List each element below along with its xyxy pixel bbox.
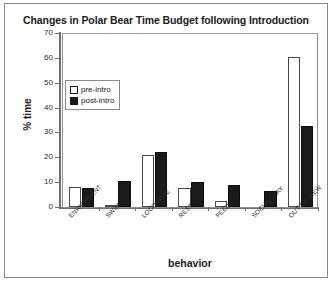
chart-frame: Changes in Polar Bear Time Budget follow… — [4, 3, 328, 278]
y-tick-mark — [55, 182, 59, 183]
plot-area — [62, 33, 318, 208]
legend-item-pre-intro: pre-intro — [70, 84, 114, 95]
legend-label: pre-intro — [81, 85, 111, 94]
y-tick-mark — [55, 108, 59, 109]
x-tick-mark — [172, 207, 173, 211]
y-tick-mark — [55, 132, 59, 133]
y-tick-label: 40 — [27, 104, 53, 112]
y-tick-label: 0 — [27, 203, 53, 211]
x-axis-title: behavior — [62, 257, 318, 269]
bar-pre-intro-out-of-view — [288, 57, 301, 207]
y-tick-label: 70 — [27, 29, 53, 37]
y-axis-line — [59, 32, 61, 209]
chart-legend: pre-intropost-intro — [65, 80, 120, 110]
x-tick-mark — [281, 207, 282, 211]
y-tick-mark — [55, 157, 59, 158]
y-tick-mark — [55, 207, 59, 208]
chart-title: Changes in Polar Bear Time Budget follow… — [5, 14, 327, 26]
bar-post-intro-rest — [191, 182, 204, 207]
x-tick-mark — [99, 207, 100, 211]
x-tick-mark — [208, 207, 209, 211]
bar-post-intro-swim — [118, 181, 131, 207]
y-tick-label: 20 — [27, 153, 53, 161]
y-tick-mark — [55, 58, 59, 59]
bar-post-intro-feed — [228, 185, 241, 207]
legend-label: post-intro — [81, 96, 114, 105]
y-tick-label: 10 — [27, 178, 53, 186]
legend-swatch-icon — [70, 97, 78, 105]
y-tick-mark — [55, 33, 59, 34]
x-tick-mark — [318, 207, 319, 211]
legend-item-post-intro: post-intro — [70, 95, 114, 106]
y-tick-label: 60 — [27, 54, 53, 62]
bar-pre-intro-locomote — [142, 155, 155, 207]
y-tick-mark — [55, 83, 59, 84]
x-tick-mark — [135, 207, 136, 211]
y-tick-label: 30 — [27, 128, 53, 136]
y-tick-label: 50 — [27, 79, 53, 87]
legend-swatch-icon — [70, 86, 78, 94]
x-tick-mark — [245, 207, 246, 211]
